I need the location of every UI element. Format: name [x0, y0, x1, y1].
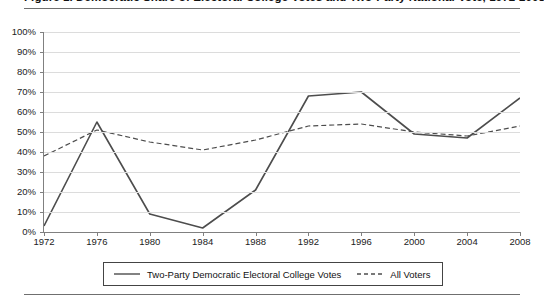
- y-axis-tick: [40, 92, 44, 93]
- x-axis-tick-label: 1992: [286, 236, 330, 247]
- plot-region: [44, 32, 520, 232]
- y-axis-tick-label: 80%: [2, 67, 36, 76]
- y-axis-tick: [40, 172, 44, 173]
- legend-label-electoral-college: Two-Party Democratic Electoral College V…: [147, 269, 341, 280]
- y-axis-tick-label: 20%: [2, 187, 36, 196]
- y-axis-tick: [40, 72, 44, 73]
- y-axis-tick-label: 30%: [2, 167, 36, 176]
- solid-line-icon: [114, 270, 140, 278]
- x-axis-tick-label: 1996: [339, 236, 383, 247]
- y-axis-tick: [40, 152, 44, 153]
- gridline: [44, 172, 520, 173]
- gridline: [44, 192, 520, 193]
- x-axis-tick-label: 2004: [445, 236, 489, 247]
- y-axis-tick: [40, 212, 44, 213]
- y-axis-tick-label: 50%: [2, 127, 36, 136]
- gridline: [44, 92, 520, 93]
- figure-container: Figure 1. Democratic Share of Electoral …: [0, 0, 544, 305]
- figure-title: Figure 1. Democratic Share of Electoral …: [24, 0, 544, 3]
- title-divider-rule: [24, 8, 520, 9]
- legend-item-electoral-college: Two-Party Democratic Electoral College V…: [114, 269, 341, 280]
- y-axis-labels: 0%10%20%30%40%50%60%70%80%90%100%: [0, 22, 36, 238]
- gridline: [44, 232, 520, 233]
- x-axis-tick-label: 2008: [498, 236, 542, 247]
- x-axis-tick-label: 1972: [22, 236, 66, 247]
- x-axis-tick-label: 1988: [234, 236, 278, 247]
- legend-item-all-voters: All Voters: [357, 269, 430, 280]
- y-axis-tick-label: 90%: [2, 47, 36, 56]
- chart-area: 0%10%20%30%40%50%60%70%80%90%100% 197219…: [0, 22, 544, 238]
- gridline: [44, 32, 520, 33]
- x-axis-labels: 1972197619801984198819921996200020042008: [44, 236, 524, 252]
- y-axis-tick-label: 60%: [2, 107, 36, 116]
- y-axis-tick-label: 40%: [2, 147, 36, 156]
- x-axis-tick-label: 1980: [128, 236, 172, 247]
- y-axis-tick-label: 0%: [2, 227, 36, 236]
- y-axis-tick: [40, 52, 44, 53]
- y-axis-tick-label: 100%: [2, 27, 36, 36]
- gridline: [44, 52, 520, 53]
- x-axis-tick-label: 2000: [392, 236, 436, 247]
- legend-label-all-voters: All Voters: [390, 269, 430, 280]
- y-axis-tick: [40, 32, 44, 33]
- y-axis-tick-label: 70%: [2, 87, 36, 96]
- gridline: [44, 132, 520, 133]
- dashed-line-icon: [357, 270, 383, 278]
- gridline: [44, 152, 520, 153]
- y-axis-tick-label: 10%: [2, 207, 36, 216]
- gridline: [44, 72, 520, 73]
- chart-legend: Two-Party Democratic Electoral College V…: [103, 262, 443, 286]
- y-axis-tick: [40, 132, 44, 133]
- x-axis-tick-label: 1976: [75, 236, 119, 247]
- x-axis-tick-label: 1984: [181, 236, 225, 247]
- y-axis-tick: [40, 192, 44, 193]
- y-axis-tick: [40, 112, 44, 113]
- gridline: [44, 212, 520, 213]
- gridline: [44, 112, 520, 113]
- bottom-divider-rule: [24, 294, 520, 295]
